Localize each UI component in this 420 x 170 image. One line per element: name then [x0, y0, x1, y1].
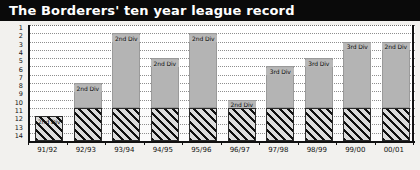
- x-axis-tick-label: 97/98: [259, 146, 298, 154]
- bar-label: 3rd Div: [266, 68, 294, 75]
- bar[interactable]: [382, 42, 410, 141]
- x-axis-tickmark: [336, 141, 337, 145]
- bar-segment-third-div: [189, 108, 217, 141]
- plot-frame: 2nd Div2nd Div2nd Div2nd Div2nd Div2nd D…: [28, 25, 415, 143]
- gridline: [30, 33, 415, 34]
- bar-segment-second-div: [343, 42, 371, 108]
- y-axis-tick-label: 13: [0, 125, 23, 132]
- y-axis-tick-label: 11: [0, 108, 23, 115]
- y-axis-tick-label: 9: [0, 91, 23, 98]
- x-axis-tick-label: 00/01: [375, 146, 414, 154]
- bar[interactable]: [343, 42, 371, 141]
- x-axis-tickmark: [259, 141, 260, 145]
- bar[interactable]: [74, 83, 102, 141]
- bar-segment-third-div: [343, 108, 371, 141]
- bar[interactable]: [189, 33, 217, 141]
- bar[interactable]: [305, 58, 333, 141]
- bar-label: 2nd Div: [112, 35, 140, 42]
- x-axis-tick-label: 99/00: [336, 146, 375, 154]
- x-axis-tick-label: 98/99: [298, 146, 337, 154]
- y-axis-tick-label: 6: [0, 67, 23, 74]
- x-axis-tickmark: [182, 141, 183, 145]
- x-axis-tick-label: 93/94: [105, 146, 144, 154]
- bar-label: 2nd Div: [35, 118, 63, 125]
- bar[interactable]: [151, 58, 179, 141]
- bar-segment-third-div: [74, 108, 102, 141]
- x-axis-tick-label: 96/97: [221, 146, 260, 154]
- x-axis-tickmark: [298, 141, 299, 145]
- bar-segment-third-div: [305, 108, 333, 141]
- y-axis-tick-label: 5: [0, 58, 23, 65]
- y-axis-tick-label: 10: [0, 100, 23, 107]
- y-axis-tick-label: 14: [0, 133, 23, 140]
- x-axis-labels: 91/9292/9393/9494/9595/9696/9797/9898/99…: [28, 146, 413, 158]
- bar-label: 2nd Div: [74, 85, 102, 92]
- bar-label: 2nd Div: [151, 60, 179, 67]
- bar-label: 2nd Div: [228, 101, 256, 108]
- x-axis-tickmark: [28, 141, 29, 145]
- plot-area: 2nd Div2nd Div2nd Div2nd Div2nd Div2nd D…: [30, 25, 415, 141]
- bar-segment-second-div: [189, 33, 217, 108]
- x-axis-tick-label: 95/96: [182, 146, 221, 154]
- y-axis-tick-label: 8: [0, 83, 23, 90]
- bar-segment-third-div: [228, 108, 256, 141]
- bar-label: 3rd Div: [343, 43, 371, 50]
- page-title: The Borderers' ten year league record: [9, 3, 295, 18]
- y-axis-tick-label: 12: [0, 116, 23, 123]
- x-axis-tickmark: [144, 141, 145, 145]
- x-axis-tickmark: [105, 141, 106, 145]
- chart-title-bar: The Borderers' ten year league record: [0, 0, 420, 21]
- x-axis-tickmark: [67, 141, 68, 145]
- bar-segment-second-div: [382, 42, 410, 108]
- bar-label: 3rd Div: [305, 60, 333, 67]
- bar-segment-third-div: [112, 108, 140, 141]
- x-axis-tickmark: [221, 141, 222, 145]
- bar-segment-second-div: [112, 33, 140, 108]
- y-axis-tick-label: 2: [0, 33, 23, 40]
- bar-label: 2nd Div: [382, 43, 410, 50]
- bar-label: 2nd Div: [189, 35, 217, 42]
- x-axis-tick-label: 91/92: [28, 146, 67, 154]
- bar-segment-third-div: [151, 108, 179, 141]
- y-axis-tick-label: 4: [0, 50, 23, 57]
- y-axis-labels: 1234567891011121314: [0, 25, 26, 141]
- plot-right-rule: [412, 25, 414, 143]
- x-axis-tickmark: [375, 141, 376, 145]
- bar[interactable]: [112, 33, 140, 141]
- bar[interactable]: [266, 66, 294, 141]
- y-axis-tick-label: 1: [0, 25, 23, 32]
- chart-figure: The Borderers' ten year league record 12…: [0, 0, 420, 170]
- y-axis-tick-label: 3: [0, 42, 23, 49]
- bar-segment-third-div: [266, 108, 294, 141]
- y-axis-tick-label: 7: [0, 75, 23, 82]
- bar-segment-third-div: [382, 108, 410, 141]
- x-axis-tick-label: 94/95: [144, 146, 183, 154]
- x-axis-tick-label: 92/93: [67, 146, 106, 154]
- gridline: [30, 25, 415, 26]
